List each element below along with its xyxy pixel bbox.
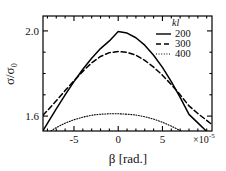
figure-container: -505 1.62.0 β [rad.] σ/σ₀ ×10 -5 kl20030…: [0, 0, 226, 171]
y-tick-label-2.0: 2.0: [25, 25, 39, 37]
x-exponent-base: ×10: [193, 134, 209, 145]
y-tick-label-1.6: 1.6: [25, 110, 39, 122]
x-axis-label: β [rad.]: [109, 151, 147, 166]
legend-title: kl: [172, 17, 179, 28]
legend-label-400: 400: [175, 48, 191, 59]
x-tick-label-0: 0: [115, 133, 121, 145]
chart-canvas: -505 1.62.0 β [rad.] σ/σ₀ ×10 -5 kl20030…: [0, 0, 226, 171]
y-axis-label: σ/σ₀: [2, 63, 17, 85]
x-exponent-superscript: -5: [209, 132, 215, 140]
x-tick-label-5: 5: [160, 133, 166, 145]
x-tick-label--5: -5: [69, 133, 79, 145]
